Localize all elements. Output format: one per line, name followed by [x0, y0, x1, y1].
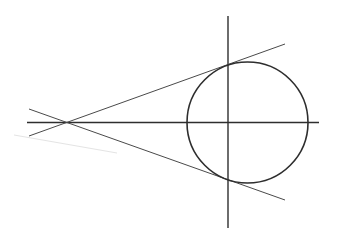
- faint-smudge-line: [14, 135, 117, 153]
- geometry-diagram: [0, 0, 338, 242]
